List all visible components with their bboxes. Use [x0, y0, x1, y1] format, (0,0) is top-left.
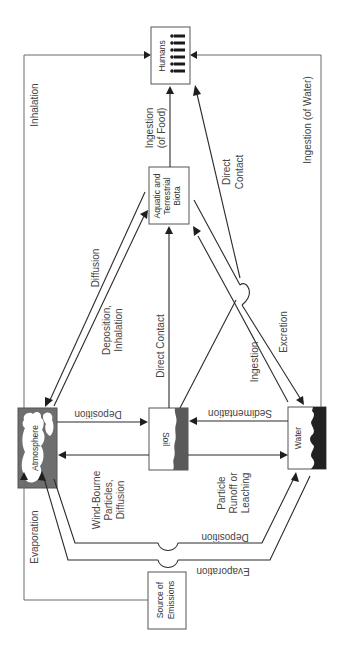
- label-deposition-inhalation-1: Deposition,: [101, 305, 112, 355]
- label-runoff-2: Runoff or: [228, 472, 239, 514]
- node-source-of-emissions: Source of Emissions: [148, 572, 186, 629]
- source-label-line2: Emissions: [166, 581, 176, 620]
- evaporation-source-edge: [24, 479, 148, 600]
- arrow-head-icon: [190, 51, 197, 59]
- arrow-head-icon: [144, 51, 151, 59]
- label-ingestion-water: Ingestion (of Water): [302, 76, 313, 163]
- node-soil: Soil: [149, 408, 188, 470]
- biota-label-line3: Biota: [172, 186, 182, 206]
- label-evaporation-source: Evaporation: [29, 510, 40, 563]
- arrow-head-icon: [193, 226, 201, 236]
- label-direct-contact-soil: Direct Contact: [155, 314, 166, 378]
- atmosphere-label: Atmosphere: [30, 425, 40, 471]
- arrow-head-icon: [58, 451, 66, 459]
- node-humans: Humans: [151, 27, 190, 84]
- label-inhalation: Inhalation: [29, 83, 40, 126]
- soil-direct-contact-edge: [180, 300, 236, 408]
- label-deposition-atm-water: Deposition: [201, 532, 248, 543]
- label-runoff-3: Leaching: [240, 473, 251, 514]
- biota-label-line2: Terrestrial: [162, 177, 172, 214]
- node-water: Water: [288, 407, 326, 469]
- biota-label-line1: Aquatic and: [152, 173, 162, 218]
- label-deposition-atm-soil: Deposition: [74, 409, 121, 420]
- humans-label: Humans: [157, 40, 167, 72]
- arrow-head-icon: [280, 451, 288, 459]
- arrow-head-icon: [140, 418, 148, 426]
- exposure-pathway-diagram: Humans Aquatic and Terrestrial Biota Atm…: [0, 0, 345, 646]
- label-deposition-inhalation-2: Inhalation: [113, 308, 124, 351]
- label-windborne-3: Diffusion: [115, 481, 126, 520]
- diffusion-edge: [50, 192, 145, 400]
- arrow-head-icon: [193, 85, 201, 96]
- label-ingestion-food-1: Ingestion: [144, 108, 155, 149]
- arrow-head-icon: [140, 210, 148, 219]
- arrow-head-icon: [165, 226, 173, 234]
- label-windborne-1: Wind-Bourne: [91, 470, 102, 529]
- excretion-edge: [194, 200, 240, 285]
- label-windborne-2: Particles,: [103, 479, 114, 520]
- water-label: Water: [293, 427, 303, 450]
- node-biota: Aquatic and Terrestrial Biota: [149, 167, 189, 224]
- label-ingestion-food-2: (of Food): [156, 108, 167, 149]
- deposition-inhalation-edge: [54, 216, 144, 406]
- soil-label: Soil: [161, 432, 171, 446]
- label-sedimentation: Sedimentation: [208, 408, 272, 419]
- label-direct-contact-humans-2: Contact: [234, 155, 245, 190]
- label-diffusion: Diffusion: [90, 249, 101, 288]
- inhalation-connector: [24, 55, 148, 408]
- label-excretion: Excretion: [278, 311, 289, 353]
- label-evaporation-water-atm: Evaporation: [196, 566, 249, 577]
- arrow-head-icon: [166, 86, 174, 94]
- label-runoff-1: Particle: [216, 476, 227, 510]
- arrow-head-icon: [189, 417, 197, 425]
- label-direct-contact-humans-1: Direct: [221, 159, 232, 185]
- arrow-head-icon: [45, 397, 53, 407]
- label-ingestion-water-biota: Ingestion: [249, 342, 260, 383]
- source-label-line1: Source of: [155, 581, 165, 618]
